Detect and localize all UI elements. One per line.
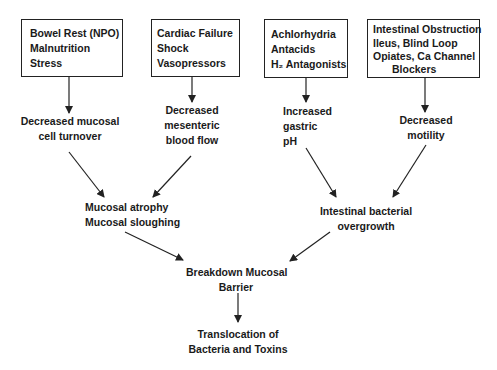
arrow-mid1-breakdown [125, 232, 183, 260]
effect-text: Decreased mucosal [14, 114, 126, 129]
cause-text: Intestinal Obstruction [373, 23, 479, 37]
arrow-effect1-mid1 [69, 152, 104, 197]
effect-decreased-mesenteric-flow: Decreased mesenteric blood flow [160, 103, 224, 148]
arrow-effect3-mid2 [306, 148, 336, 197]
cause-box-circulatory-factors: Cardiac Failure Shock Vasopressors [151, 19, 240, 77]
cause-text: H₂ Antagonists [271, 57, 347, 72]
cause-box-gastric-acid-factors: Achlorhydria Antacids H₂ Antagonists [264, 19, 348, 78]
cause-text: Vasopressors [157, 56, 239, 71]
effect-text: cell turnover [14, 129, 126, 144]
cause-text: Ileus, Blind Loop [373, 37, 479, 51]
flowchart-canvas: Bowel Rest (NPO) Malnutrition Stress Car… [0, 0, 497, 370]
breakdown-text: Barrier [186, 280, 286, 295]
cause-text: Antacids [271, 42, 347, 57]
cause-text: Cardiac Failure [157, 26, 239, 41]
cause-text: Bowel Rest (NPO) [30, 26, 122, 41]
cause-box-motility-factors: Intestinal Obstruction Ileus, Blind Loop… [367, 19, 480, 78]
effect-text: Increased [283, 104, 343, 119]
mid-text: Mucosal atrophy [85, 200, 185, 215]
arrow-effect4-mid2 [393, 145, 426, 197]
effect-text: Decreased [396, 113, 456, 128]
cause-text: Shock [157, 41, 239, 56]
breakdown-mucosal-barrier: Breakdown Mucosal Barrier [186, 265, 286, 295]
cause-text: Achlorhydria [271, 27, 347, 42]
effect-text: mesenteric [160, 118, 224, 133]
cause-text: Opiates, Ca Channel [373, 50, 479, 64]
mid-text: overgrowth [318, 219, 414, 234]
effect-text: Decreased [160, 103, 224, 118]
effect-text: pH [283, 134, 343, 149]
outcome-text: Translocation of [180, 327, 296, 342]
effect-decreased-motility: Decreased motility [396, 113, 456, 143]
mid-text: Intestinal bacterial [318, 204, 414, 219]
effect-text: motility [396, 128, 456, 143]
effect-decreased-mucosal-turnover: Decreased mucosal cell turnover [14, 114, 126, 144]
effect-text: gastric [283, 119, 343, 134]
cause-box-gi-factors: Bowel Rest (NPO) Malnutrition Stress [21, 19, 123, 77]
outcome-text: Bacteria and Toxins [180, 342, 296, 357]
cause-text: Stress [30, 56, 122, 71]
effect-text: blood flow [160, 133, 224, 148]
cause-text: Blockers [373, 64, 479, 74]
effect-increased-gastric-ph: Increased gastric pH [283, 104, 343, 149]
breakdown-text: Breakdown Mucosal [186, 265, 286, 280]
mid-text: Mucosal sloughing [85, 215, 185, 230]
mid-bacterial-overgrowth: Intestinal bacterial overgrowth [318, 204, 414, 234]
arrow-effect2-mid1 [153, 156, 191, 197]
cause-text: Malnutrition [30, 41, 122, 56]
outcome-translocation: Translocation of Bacteria and Toxins [180, 327, 296, 357]
mid-mucosal-atrophy: Mucosal atrophy Mucosal sloughing [85, 200, 185, 230]
arrow-mid2-breakdown [290, 232, 330, 261]
